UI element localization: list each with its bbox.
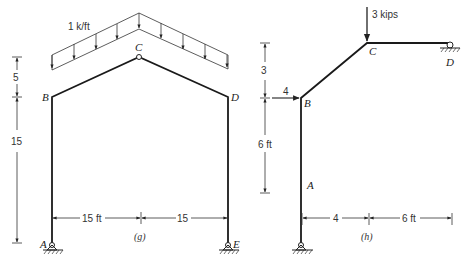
frame-h: 3 kips 4 B C D A [258,7,460,254]
joint-A: A [39,238,47,250]
pin-support-A-h [292,243,313,255]
joint-C: C [135,41,143,53]
dim-left-span-h: 4 [333,213,339,224]
dim-right-span: 15 [177,213,189,224]
vertical-dimension-h: 3 6 ft [258,43,272,193]
horizontal-load-label: 4 [283,86,289,97]
dim-height: 15 [11,136,23,147]
joint-E: E [232,238,240,250]
caption-h: (h) [361,231,373,243]
joint-A-h: A [306,179,314,191]
dim-rise: 5 [13,72,19,83]
structural-frames-figure: 1 k/ft B C [0,0,468,256]
dim-left-span: 15 ft [82,213,102,224]
hinge-C [137,55,142,60]
load-label: 1 k/ft [68,21,90,32]
dim-right-span-h: 6 ft [402,213,416,224]
joint-D: D [230,91,239,103]
vertical-dimension: 5 15 [11,57,23,243]
frame-g: 1 k/ft B C [11,13,240,254]
joint-B: B [42,91,49,103]
dim-upper-height: 3 [261,65,267,76]
member-ABCD [301,43,449,243]
vertical-load-label: 3 kips [372,9,398,20]
caption-g: (g) [134,231,146,243]
member-ABCDE [52,57,228,243]
horizontal-dimension: 15 ft 15 [52,212,228,224]
joint-B-h: B [304,97,311,109]
horizontal-dimension-h: 4 6 ft [302,213,452,225]
dim-lower-height: 6 ft [258,139,272,150]
joint-D-h: D [445,56,454,68]
joint-C-h: C [369,45,377,57]
